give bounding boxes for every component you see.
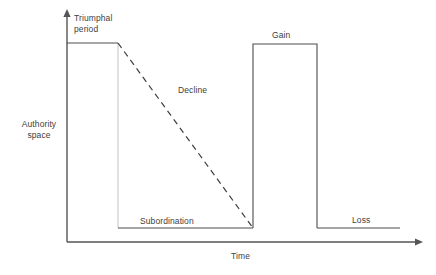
y-axis-label-line2: space: [27, 130, 50, 140]
triumphal-period-label: Triumphalperiod: [74, 13, 112, 34]
diagram-canvas: [0, 0, 436, 275]
x-axis-arrow-icon: [415, 238, 423, 245]
authority-space-diagram: Triumphalperiod Decline Subordination Ga…: [0, 0, 436, 275]
y-axis-label: Authorityspace: [14, 119, 64, 140]
decline-label: Decline: [178, 85, 207, 96]
gain-label: Gain: [272, 30, 290, 41]
gain-block-outline: [253, 44, 317, 228]
axes-group: [63, 9, 423, 246]
loss-label: Loss: [352, 215, 370, 226]
decline-dashed-line: [118, 43, 253, 228]
y-axis-arrow-icon: [63, 9, 70, 17]
subordination-label: Subordination: [140, 216, 194, 227]
y-axis-label-line1: Authority: [22, 119, 56, 129]
x-axis-label: Time: [231, 251, 250, 262]
triumphal-period-label-line1: Triumphal: [74, 13, 112, 23]
triumphal-period-label-line2: period: [74, 24, 98, 34]
